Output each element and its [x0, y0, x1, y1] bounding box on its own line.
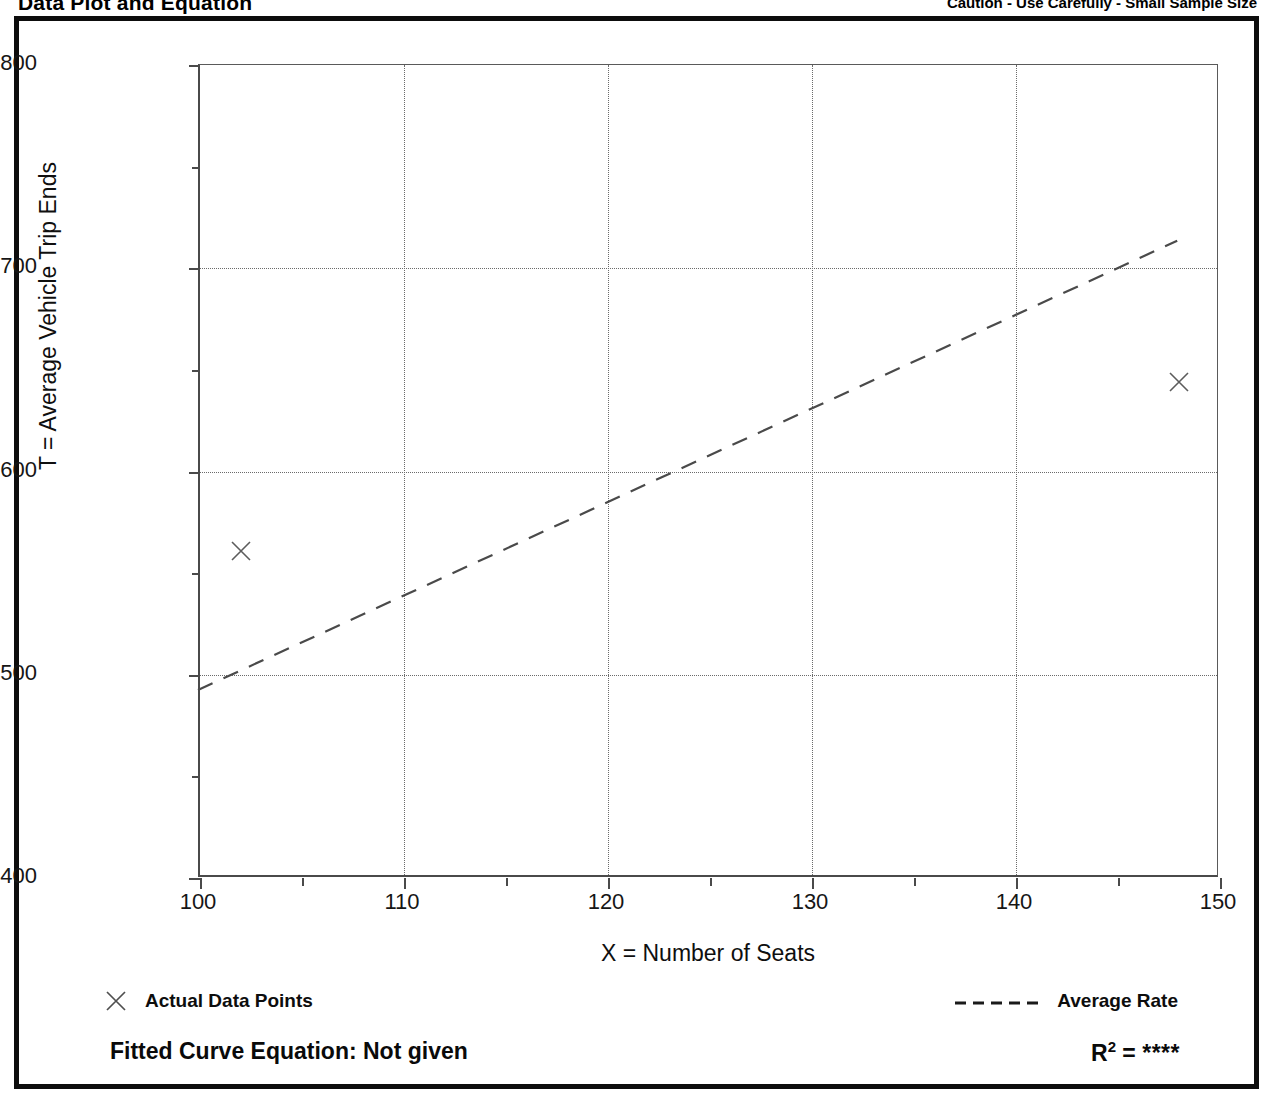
- xtick-110: [404, 878, 406, 889]
- gridline-y-500: [200, 675, 1217, 676]
- r-squared-exponent: 2: [1108, 1038, 1116, 1055]
- ytick-minor-750: [192, 167, 200, 169]
- gridline-y-700: [200, 268, 1217, 269]
- x-marker-icon: [105, 990, 127, 1012]
- equation-strip: Fitted Curve Equation: Not given R2 = **…: [0, 1038, 1273, 1078]
- r-squared-stars: ****: [1142, 1040, 1180, 1066]
- xtick-120: [608, 878, 610, 889]
- ytick-minor-550: [192, 573, 200, 575]
- ytick-minor-650: [192, 370, 200, 372]
- plot-area: [198, 64, 1218, 877]
- xtick-minor-135: [914, 878, 916, 886]
- legend-item-average-rate: Average Rate: [953, 990, 1178, 1012]
- gridline-x-140: [1016, 65, 1017, 875]
- ytick-500: [189, 675, 200, 677]
- r-squared-value: R2 = ****: [1091, 1038, 1180, 1067]
- gridline-x-120: [608, 65, 609, 875]
- gridline-x-110: [404, 65, 405, 875]
- ytick-label-800: 800: [0, 50, 37, 76]
- legend-label-actual-data-points: Actual Data Points: [145, 990, 313, 1012]
- ytick-label-700: 700: [0, 253, 37, 279]
- r-squared-equals: =: [1116, 1040, 1142, 1066]
- ytick-label-600: 600: [0, 457, 37, 483]
- data-point-marker: [230, 540, 252, 562]
- xtick-140: [1016, 878, 1018, 889]
- xtick-label-110: 110: [384, 889, 419, 915]
- x-axis-title: X = Number of Seats: [198, 940, 1218, 967]
- r-squared-symbol: R: [1091, 1040, 1108, 1066]
- xtick-100: [200, 878, 202, 889]
- ytick-label-500: 500: [0, 660, 37, 686]
- y-axis-title: T = Average Vehicle Trip Ends: [35, 162, 62, 470]
- xtick-minor-145: [1118, 878, 1120, 886]
- ytick-400: [189, 878, 200, 880]
- xtick-label-130: 130: [792, 889, 829, 915]
- xtick-130: [812, 878, 814, 889]
- chart-legend: Actual Data Points Average Rate: [0, 990, 1273, 1024]
- xtick-150: [1220, 878, 1222, 889]
- ytick-800: [189, 65, 200, 67]
- data-point-marker: [1168, 371, 1190, 393]
- fitted-curve-equation: Fitted Curve Equation: Not given: [110, 1038, 468, 1065]
- ytick-600: [189, 472, 200, 474]
- legend-item-actual-data-points: Actual Data Points: [105, 990, 313, 1012]
- xtick-minor-115: [506, 878, 508, 886]
- xtick-label-120: 120: [588, 889, 625, 915]
- dashed-line-icon: [953, 995, 1041, 1007]
- xtick-minor-125: [710, 878, 712, 886]
- xtick-label-100: 100: [180, 889, 217, 915]
- xtick-label-150: 150: [1200, 889, 1237, 915]
- ytick-700: [189, 268, 200, 270]
- gridline-y-600: [200, 472, 1217, 473]
- xtick-label-140: 140: [996, 889, 1033, 915]
- xtick-minor-105: [302, 878, 304, 886]
- chart-region: 800 700 600 500 400 100 110 120 130 140 …: [0, 0, 1273, 1105]
- legend-label-average-rate: Average Rate: [1057, 990, 1178, 1012]
- gridline-x-130: [812, 65, 813, 875]
- ytick-label-400: 400: [0, 863, 37, 889]
- ytick-minor-450: [192, 776, 200, 778]
